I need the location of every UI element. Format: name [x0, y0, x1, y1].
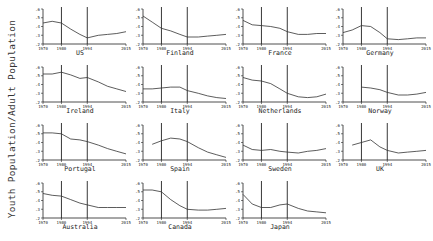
- series-line: [43, 21, 126, 38]
- svg-text:.4: .4: [235, 198, 240, 203]
- line-plot: .2.3.4.5.61970198019942015: [130, 4, 230, 50]
- svg-text:.3: .3: [35, 33, 40, 38]
- panel-title: Portugal: [30, 165, 130, 173]
- line-plot: .2.3.4.5.61970198019942015: [130, 62, 230, 108]
- svg-text:.5: .5: [35, 73, 40, 78]
- chart-panel-portugal: .2.3.4.5.61970198019942015Portugal: [30, 120, 130, 178]
- chart-panel-spain: .2.3.4.5.61970198019942015Spain: [130, 120, 230, 178]
- series-line: [152, 138, 226, 157]
- svg-text:.6: .6: [135, 65, 140, 70]
- svg-text:.6: .6: [135, 181, 140, 186]
- series-line: [243, 194, 326, 212]
- panel-title: UK: [330, 165, 430, 173]
- svg-text:.4: .4: [35, 82, 40, 87]
- series-line: [343, 26, 426, 40]
- panel-title: Ireland: [30, 107, 130, 115]
- panel-title: Sweden: [230, 165, 330, 173]
- series-line: [143, 87, 226, 98]
- panel-title: Spain: [130, 165, 230, 173]
- series-line: [43, 194, 126, 208]
- svg-text:.3: .3: [135, 207, 140, 212]
- series-line: [243, 20, 326, 34]
- svg-text:.4: .4: [135, 198, 140, 203]
- svg-text:.5: .5: [235, 15, 240, 20]
- svg-text:.5: .5: [135, 131, 140, 136]
- svg-text:.6: .6: [235, 181, 240, 186]
- svg-text:.4: .4: [235, 24, 240, 29]
- panel-title: Canada: [130, 223, 230, 231]
- svg-text:.6: .6: [235, 123, 240, 128]
- svg-text:.5: .5: [35, 15, 40, 20]
- chart-panel-italy: .2.3.4.5.61970198019942015Italy: [130, 62, 230, 120]
- chart-panel-japan: .2.3.4.5.61970198019942015Japan: [230, 178, 330, 236]
- svg-text:.5: .5: [335, 131, 340, 136]
- svg-text:.6: .6: [335, 65, 340, 70]
- chart-panel-ireland: .2.3.4.5.61970198019942015Ireland: [30, 62, 130, 120]
- svg-text:.3: .3: [35, 207, 40, 212]
- svg-text:.5: .5: [235, 189, 240, 194]
- svg-text:.3: .3: [235, 207, 240, 212]
- panel-title: France: [230, 49, 330, 57]
- svg-text:.6: .6: [235, 7, 240, 12]
- svg-text:.5: .5: [35, 189, 40, 194]
- svg-text:.4: .4: [135, 24, 140, 29]
- svg-text:.4: .4: [335, 24, 340, 29]
- chart-panel-finland: .2.3.4.5.61970198019942015Finland: [130, 4, 230, 62]
- line-plot: .2.3.4.5.61970198019942015: [330, 4, 430, 50]
- chart-panel-uk: .2.3.4.5.61970198019942015UK: [330, 120, 430, 178]
- line-plot: .2.3.4.5.61970198019942015: [30, 120, 130, 166]
- series-line: [361, 87, 426, 95]
- line-plot: .2.3.4.5.61970198019942015: [330, 120, 430, 166]
- svg-text:.3: .3: [135, 91, 140, 96]
- svg-text:.6: .6: [35, 65, 40, 70]
- series-line: [43, 72, 126, 91]
- svg-text:.5: .5: [235, 73, 240, 78]
- series-line: [143, 16, 226, 37]
- svg-text:.6: .6: [335, 7, 340, 12]
- svg-text:.5: .5: [135, 73, 140, 78]
- chart-panel-canada: .2.3.4.5.61970198019942015Canada: [130, 178, 230, 236]
- chart-panel-sweden: .2.3.4.5.61970198019942015Sweden: [230, 120, 330, 178]
- chart-panel-netherlands: .2.3.4.5.61970198019942015Netherlands: [230, 62, 330, 120]
- svg-text:.6: .6: [335, 123, 340, 128]
- svg-text:.5: .5: [335, 73, 340, 78]
- svg-text:.4: .4: [335, 82, 340, 87]
- svg-text:.3: .3: [335, 149, 340, 154]
- series-line: [352, 140, 426, 153]
- panel-title: Australia: [30, 223, 130, 231]
- panel-title: Norway: [330, 107, 430, 115]
- svg-text:.3: .3: [135, 149, 140, 154]
- svg-text:.5: .5: [135, 15, 140, 20]
- svg-text:.4: .4: [35, 24, 40, 29]
- panel-title: Japan: [230, 223, 330, 231]
- svg-text:.6: .6: [35, 181, 40, 186]
- line-plot: .2.3.4.5.61970198019942015: [230, 178, 330, 224]
- svg-text:.5: .5: [35, 131, 40, 136]
- line-plot: .2.3.4.5.61970198019942015: [30, 62, 130, 108]
- chart-panel-germany: .2.3.4.5.61970198019942015Germany: [330, 4, 430, 62]
- svg-text:.6: .6: [35, 7, 40, 12]
- svg-text:.6: .6: [35, 123, 40, 128]
- svg-text:.6: .6: [135, 123, 140, 128]
- panel-title: Italy: [130, 107, 230, 115]
- chart-panel-australia: .2.3.4.5.61970198019942015Australia: [30, 178, 130, 236]
- svg-text:.3: .3: [335, 33, 340, 38]
- svg-text:.6: .6: [235, 65, 240, 70]
- svg-text:.4: .4: [335, 140, 340, 145]
- line-plot: .2.3.4.5.61970198019942015: [230, 62, 330, 108]
- panel-title: Germany: [330, 49, 430, 57]
- series-line: [43, 133, 126, 154]
- line-plot: .2.3.4.5.61970198019942015: [30, 4, 130, 50]
- series-line: [143, 190, 226, 210]
- svg-text:.4: .4: [35, 198, 40, 203]
- series-line: [243, 145, 326, 153]
- svg-text:.5: .5: [335, 15, 340, 20]
- svg-text:.4: .4: [235, 82, 240, 87]
- line-plot: .2.3.4.5.61970198019942015: [130, 178, 230, 224]
- svg-text:.5: .5: [135, 189, 140, 194]
- series-line: [243, 78, 326, 98]
- svg-text:.3: .3: [235, 91, 240, 96]
- line-plot: .2.3.4.5.61970198019942015: [330, 62, 430, 108]
- y-axis-label: Youth Population/Adult Population: [6, 14, 20, 224]
- line-plot: .2.3.4.5.61970198019942015: [130, 120, 230, 166]
